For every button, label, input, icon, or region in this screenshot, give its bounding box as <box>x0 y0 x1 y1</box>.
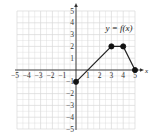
y-tick-label: 2 <box>70 42 74 51</box>
y-tick-label: −2 <box>66 89 74 98</box>
x-tick-label: 4 <box>121 71 125 80</box>
data-point-marker <box>109 44 114 49</box>
x-tick-label: −2 <box>46 71 54 80</box>
y-tick-label: 5 <box>70 7 74 16</box>
y-tick-label: −3 <box>66 101 74 110</box>
data-point-marker <box>121 44 126 49</box>
data-point-marker <box>73 79 78 84</box>
x-tick-label: 2 <box>98 71 102 80</box>
data-point-marker <box>132 67 137 72</box>
x-tick-label: −3 <box>35 71 43 80</box>
y-tick-label: −5 <box>66 125 74 134</box>
x-axis-label: x <box>144 67 149 75</box>
x-tick-label: 1 <box>86 71 90 80</box>
y-tick-label: 3 <box>70 30 74 39</box>
y-axis-arrow-icon <box>74 3 78 7</box>
y-tick-label: 4 <box>70 18 74 27</box>
x-axis-arrow-icon <box>140 68 144 72</box>
x-tick-label: −4 <box>23 71 31 80</box>
function-label: y = f(x) <box>105 23 133 33</box>
x-tick-label: −5 <box>11 71 19 80</box>
axes <box>15 3 144 130</box>
y-tick-label: −4 <box>66 113 74 122</box>
x-tick-label: 3 <box>110 71 114 80</box>
y-tick-label: 1 <box>70 54 74 63</box>
function-graph: −5−4−3−2−11234554321−1−2−3−4−5 y = f(x) … <box>0 0 149 135</box>
